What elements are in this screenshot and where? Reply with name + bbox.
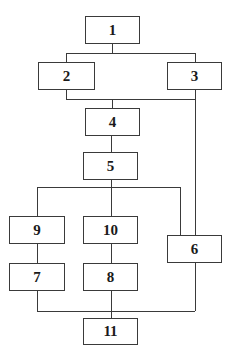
- connector-9-to-7: [37, 244, 38, 263]
- connector-to-3: [195, 53, 196, 62]
- node-5: 5: [83, 152, 138, 180]
- connector-8-down: [111, 291, 112, 318]
- connector-to-9: [37, 187, 38, 216]
- connector-to-4: [112, 99, 113, 108]
- connector-2-down: [66, 90, 67, 99]
- block-diagram: 1 2 3 4 5 6 7 8 9 10 11: [0, 0, 240, 363]
- connector-5-to-6: [180, 187, 181, 235]
- connector-4-to-5: [111, 136, 112, 152]
- node-10: 10: [83, 216, 138, 244]
- connector-to-2: [66, 53, 67, 62]
- connector-7-down: [37, 291, 38, 311]
- connector-3-to-6: [195, 90, 196, 235]
- connector-1-down: [112, 44, 113, 53]
- node-9: 9: [9, 216, 65, 244]
- node-3: 3: [167, 62, 222, 90]
- connector-5-down: [111, 180, 112, 187]
- node-8: 8: [83, 263, 138, 291]
- node-7: 7: [9, 263, 65, 291]
- connector-merge-11: [37, 311, 195, 312]
- connector-split-5: [37, 187, 180, 188]
- node-1: 1: [85, 16, 140, 44]
- connector-merge-2-3: [66, 99, 195, 100]
- connector-to-10: [111, 187, 112, 216]
- connector-6-down: [195, 263, 196, 311]
- connector-split-1: [66, 53, 195, 54]
- connector-10-to-8: [111, 244, 112, 263]
- node-11: 11: [83, 318, 138, 345]
- node-2: 2: [38, 62, 95, 90]
- node-4: 4: [85, 108, 140, 136]
- node-6: 6: [167, 235, 222, 263]
